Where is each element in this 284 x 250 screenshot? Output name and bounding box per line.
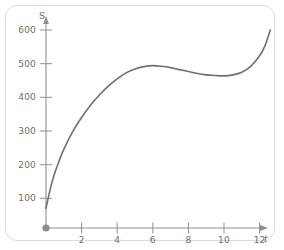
y-tick-label-300: 300 xyxy=(10,126,36,136)
chart-plot-area xyxy=(0,0,284,250)
x-tick-label-2: 2 xyxy=(74,235,90,245)
y-axis-group xyxy=(40,16,52,228)
x-axis-group xyxy=(46,223,268,234)
x-axis-label: t xyxy=(264,234,268,244)
y-axis-label: S xyxy=(39,11,45,21)
data-curve-line xyxy=(46,30,270,208)
x-tick-label-8: 8 xyxy=(180,235,196,245)
y-tick-label-400: 400 xyxy=(10,92,36,102)
origin-dot xyxy=(42,224,49,231)
x-axis-arrowhead xyxy=(260,225,268,231)
x-tick-label-10: 10 xyxy=(216,235,232,245)
y-tick-label-500: 500 xyxy=(10,59,36,69)
y-tick-label-200: 200 xyxy=(10,160,36,170)
y-tick-label-600: 600 xyxy=(10,25,36,35)
x-tick-label-4: 4 xyxy=(109,235,125,245)
y-tick-label-100: 100 xyxy=(10,193,36,203)
x-tick-label-6: 6 xyxy=(145,235,161,245)
